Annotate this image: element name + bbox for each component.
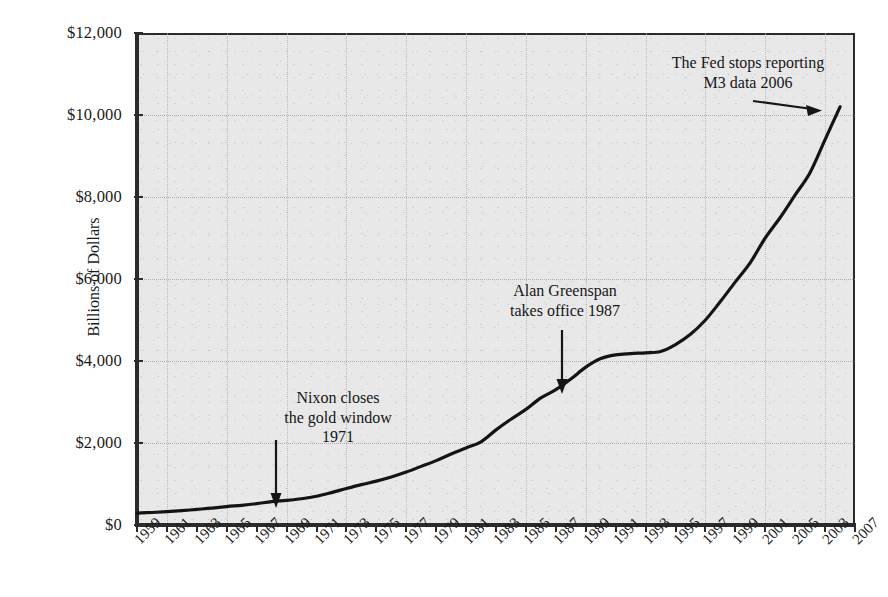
y-axis-line [135,33,138,527]
annotation-greenspan-line-1: Alan Greenspan [470,281,660,301]
y-axis-tick-label: $2,000 [75,433,122,453]
gridline-vertical [287,33,288,525]
gridline-horizontal [137,115,855,116]
gridline-horizontal [137,361,855,362]
gridline-vertical [167,33,168,525]
y-axis-tick-label: $0 [105,515,122,535]
gridline-vertical [227,33,228,525]
y-axis-tick-mark [134,442,143,444]
y-axis-tick-mark [134,360,143,362]
gridline-vertical [646,33,647,525]
gridline-vertical [526,33,527,525]
y-axis-tick-mark [134,114,143,116]
chart-figure: $0$2,000$4,000$6,000$8,000$10,000$12,000… [0,0,888,597]
y-axis-tick-mark [134,32,143,34]
annotation-nixon-line-3: 1971 [243,427,433,447]
y-axis-tick-mark [134,196,143,198]
plot-background-texture [139,35,853,525]
annotation-fed-line-1: The Fed stops reporting [633,53,863,73]
annotation-fed-line-2: M3 data 2006 [633,73,863,93]
y-axis-tick-label: $12,000 [67,23,122,43]
gridline-vertical [406,33,407,525]
y-axis-tick-label: $10,000 [67,105,122,125]
gridline-vertical [825,33,826,525]
gridline-vertical [765,33,766,525]
y-axis-title: Billions of Dollars [85,177,103,377]
gridline-horizontal [137,197,855,198]
annotation-greenspan-line-2: takes office 1987 [470,301,660,321]
gridline-vertical [705,33,706,525]
annotation-nixon: Nixon closes the gold window 1971 [243,388,433,447]
gridline-vertical [466,33,467,525]
annotation-nixon-line-1: Nixon closes [243,388,433,408]
gridline-horizontal [137,279,855,280]
y-axis-tick-mark [134,278,143,280]
annotation-fed: The Fed stops reporting M3 data 2006 [633,53,863,92]
annotation-greenspan: Alan Greenspan takes office 1987 [470,281,660,320]
gridline-vertical [586,33,587,525]
annotation-nixon-line-2: the gold window [243,408,433,428]
gridline-vertical [346,33,347,525]
